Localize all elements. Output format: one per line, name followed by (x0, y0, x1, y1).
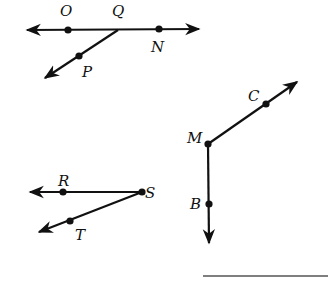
figure-angle-cmb: M C B (186, 82, 297, 243)
figure-angle-rst: R S T (30, 172, 155, 244)
label-c: C (248, 87, 260, 105)
point-m (204, 140, 211, 147)
label-q: Q (112, 2, 124, 20)
label-s: S (145, 184, 155, 202)
point-t (66, 217, 73, 224)
point-n (155, 25, 162, 32)
point-b (205, 200, 212, 207)
line-on (27, 29, 199, 30)
label-t: T (75, 226, 86, 244)
label-m: M (186, 129, 203, 147)
figure-line-on-ray-qp: O Q N P (27, 2, 199, 81)
point-p (75, 52, 82, 59)
label-p: P (81, 63, 93, 81)
ray-st (39, 192, 142, 232)
label-n: N (150, 38, 165, 56)
label-r: R (57, 172, 69, 190)
label-b: B (189, 195, 201, 213)
point-o (64, 26, 71, 33)
geometry-diagram: O Q N P M C B R S T (0, 0, 328, 282)
label-o: O (60, 2, 72, 20)
ray-mb (208, 144, 209, 243)
point-c (262, 100, 269, 107)
